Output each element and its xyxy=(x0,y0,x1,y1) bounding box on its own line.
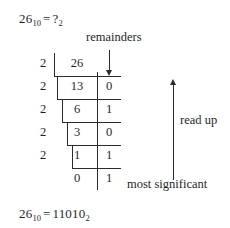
ladder-quotient: 0 xyxy=(57,171,97,186)
ladder-divisor: 2 xyxy=(36,56,50,71)
ladder-divisor: 2 xyxy=(36,125,50,140)
ladder-row-underline xyxy=(54,76,121,77)
ladder-remainder: 1 xyxy=(100,171,118,186)
ladder-bracket-vertical xyxy=(57,76,58,99)
equation-bottom-result: 11010 xyxy=(52,206,85,221)
equation-bottom-value: 26 xyxy=(19,206,32,221)
ladder-quotient: 3 xyxy=(57,125,97,140)
equation-bottom: 2610=110102 xyxy=(19,206,90,222)
ladder-quotient: 26 xyxy=(57,56,97,71)
ladder-quotient: 6 xyxy=(57,102,97,117)
ladder-divisor: 2 xyxy=(36,148,50,163)
remainder-column-divider xyxy=(97,72,98,190)
ladder-row-underline xyxy=(57,99,121,100)
ladder-remainder: 1 xyxy=(100,148,118,163)
equation-bottom-value-subscript: 10 xyxy=(32,213,41,223)
ladder-remainder: 0 xyxy=(100,125,118,140)
ladder-bracket-vertical xyxy=(67,122,68,145)
ladder-bracket-vertical xyxy=(54,53,55,76)
ladder-remainder: 0 xyxy=(100,79,118,94)
ladder-bracket-vertical xyxy=(62,99,63,122)
ladder-divisor: 2 xyxy=(36,102,50,117)
ladder-quotient: 1 xyxy=(57,148,97,163)
division-ladder: 2 26 2 13 0 2 6 1 2 3 0 2 1 1 0 1 xyxy=(0,0,230,228)
ladder-quotient: 13 xyxy=(57,79,97,94)
equation-bottom-equals: = xyxy=(43,206,51,221)
ladder-row-underline xyxy=(67,145,121,146)
ladder-divisor: 2 xyxy=(36,79,50,94)
binary-conversion-diagram: 2610=?2 remainders read up most signific… xyxy=(0,0,230,228)
ladder-bracket-vertical xyxy=(72,145,73,168)
ladder-remainder: 1 xyxy=(100,102,118,117)
ladder-row-underline xyxy=(62,122,121,123)
equation-bottom-result-subscript: 2 xyxy=(85,213,89,223)
